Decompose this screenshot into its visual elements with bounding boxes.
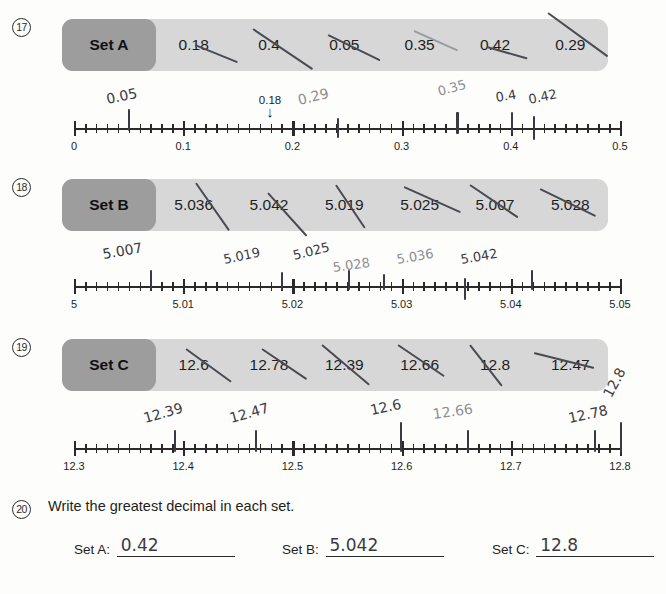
tick-minor	[150, 444, 152, 453]
decimal-list-a: 0.18 0.4 0.05 0.35 0.42 0.29	[156, 19, 608, 71]
tick-minor	[314, 124, 316, 133]
tick-minor	[271, 124, 273, 133]
tick-minor	[129, 444, 131, 453]
tick-minor	[434, 282, 436, 291]
tick-label: 0.1	[176, 140, 191, 152]
handwriting-0.29: 0.29	[296, 85, 330, 108]
tick-minor	[238, 282, 240, 291]
tick-minor	[238, 124, 240, 133]
student-mark	[456, 112, 459, 134]
tick-minor	[554, 444, 556, 453]
tick-minor	[598, 124, 600, 133]
answer-label-b: Set B:	[282, 542, 319, 557]
tick-minor	[478, 124, 480, 133]
tick-minor	[423, 444, 425, 453]
student-mark	[594, 430, 596, 452]
tick-major	[292, 279, 294, 294]
tick-minor	[303, 124, 305, 133]
handwriting-12.6: 12.6	[369, 396, 403, 418]
tick-minor	[358, 124, 360, 133]
tick-label: 12.4	[172, 460, 193, 472]
tick-minor	[358, 444, 360, 453]
answer-set-a: Set A: 0.42	[74, 540, 235, 557]
tick-minor	[413, 124, 415, 133]
tick-major	[74, 279, 76, 294]
question-number-20: 20	[12, 500, 31, 519]
tick-minor	[544, 124, 546, 133]
tick-label: 5.02	[282, 298, 303, 310]
tick-minor	[478, 444, 480, 453]
printed-callout-0.18: 0.18 ↓	[259, 94, 281, 118]
tick-minor	[161, 282, 163, 291]
tick-minor	[107, 282, 109, 291]
answer-blank-b[interactable]: 5.042	[326, 540, 444, 557]
problem-17: 17 Set A 0.18 0.4 0.05 0.35 0.42 0.29 00…	[0, 6, 666, 158]
decimal-c-0: 12.6	[156, 356, 231, 374]
question-number-18: 18	[12, 178, 31, 197]
tick-minor	[118, 444, 120, 453]
tick-minor	[478, 282, 480, 291]
tick-minor	[161, 444, 163, 453]
tick-minor	[238, 444, 240, 453]
decimal-list-c: 12.6 12.78 12.39 12.66 12.8 12.47	[156, 339, 608, 391]
decimal-c-4: 12.8	[457, 356, 532, 374]
tick-minor	[314, 282, 316, 291]
tick-minor	[533, 444, 535, 453]
answer-blank-a[interactable]: 0.42	[117, 540, 235, 557]
tick-minor	[609, 444, 611, 453]
student-mark	[400, 422, 402, 452]
decimal-a-4: 0.42	[457, 36, 532, 54]
tick-minor	[445, 444, 447, 453]
set-banner-a: Set A 0.18 0.4 0.05 0.35 0.42 0.29	[62, 19, 608, 71]
tick-minor	[281, 124, 283, 133]
tick-minor	[358, 282, 360, 291]
handwriting-0.4: 0.4	[494, 87, 517, 105]
down-arrow-icon: ↓	[259, 106, 281, 118]
question-number-17: 17	[12, 18, 31, 37]
tick-minor	[107, 124, 109, 133]
tick-minor	[434, 444, 436, 453]
tick-label: 12.5	[282, 460, 303, 472]
tick-minor	[369, 444, 371, 453]
decimal-b-4: 5.007	[457, 196, 532, 214]
answer-value-c: 12.8	[540, 535, 578, 555]
answer-label-a: Set A:	[74, 542, 110, 557]
tick-minor	[194, 282, 196, 291]
set-label-a: Set A	[62, 19, 156, 71]
tick-minor	[434, 124, 436, 133]
tick-minor	[456, 444, 458, 453]
answer-blank-c[interactable]: 12.8	[536, 540, 654, 557]
answer-set-b: Set B: 5.042	[282, 540, 444, 557]
set-label-c: Set C	[62, 339, 156, 391]
tick-minor	[587, 124, 589, 133]
question-prompt: Write the greatest decimal in each set.	[48, 498, 294, 514]
tick-minor	[205, 124, 207, 133]
tick-label: 0.3	[394, 140, 409, 152]
tick-minor	[303, 444, 305, 453]
tick-minor	[489, 444, 491, 453]
tick-minor	[161, 124, 163, 133]
decimal-b-0: 5.036	[156, 196, 231, 214]
tick-minor	[260, 444, 262, 453]
tick-label: 5.03	[391, 298, 412, 310]
answer-label-c: Set C:	[492, 542, 530, 557]
handwriting-12.39: 12.39	[142, 400, 185, 426]
tick-label: 5	[71, 298, 77, 310]
student-mark	[348, 270, 350, 290]
tick-minor	[118, 124, 120, 133]
student-mark	[255, 430, 257, 452]
tick-minor	[522, 124, 524, 133]
tick-minor	[467, 124, 469, 133]
tick-minor	[96, 282, 98, 291]
problem-18: 18 Set B 5.036 5.042 5.019 5.025 5.007 5…	[0, 166, 666, 318]
student-mark	[464, 278, 466, 300]
handwriting-0.42: 0.42	[527, 86, 558, 107]
tick-minor	[413, 282, 415, 291]
tick-minor	[391, 124, 393, 133]
tick-major	[292, 441, 294, 456]
tick-minor	[194, 444, 196, 453]
tick-minor	[576, 282, 578, 291]
tick-minor	[140, 282, 142, 291]
handwriting-5.042: 5.042	[459, 246, 498, 267]
tick-minor	[554, 282, 556, 291]
